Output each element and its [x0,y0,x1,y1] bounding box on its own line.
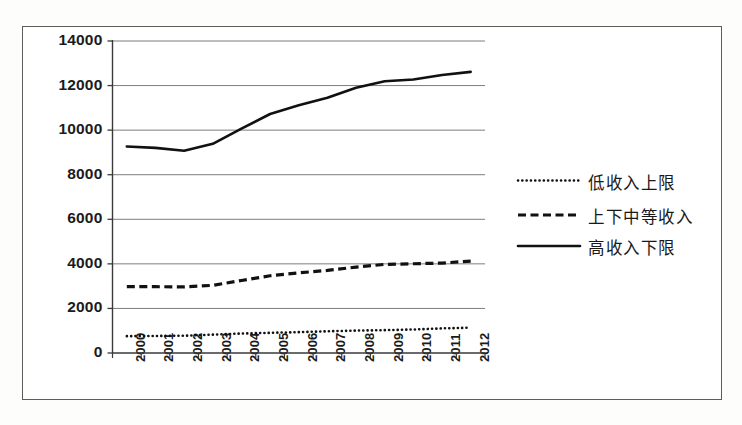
y-tick-label: 14000 [58,31,102,49]
y-tick-label: 0 [94,343,103,361]
y-tick-label: 8000 [67,165,102,183]
x-tick-label: 2000 [133,333,148,362]
y-tick-label: 6000 [67,209,102,227]
y-tick-label: 2000 [67,298,102,316]
x-tick-label: 2012 [477,333,492,362]
x-tick-label: 2007 [333,333,348,362]
legend-item-1[interactable] [514,168,704,194]
y-tick-label: 4000 [67,254,102,272]
x-tick-label: 2006 [305,333,320,362]
legend-item-3[interactable] [514,233,704,259]
x-tick-label: 2009 [391,333,406,362]
x-tick-label: 2008 [362,333,377,362]
x-tick-label: 2010 [419,333,434,362]
x-tick-label: 2011 [448,333,463,362]
x-tick-label: 2001 [161,333,176,362]
x-tick-label: 2003 [219,333,234,362]
x-tick-label: 2005 [276,333,291,362]
x-tick-label: 2004 [247,333,262,362]
chart-figure: 02000400060008000100001200014000 2000200… [0,0,742,425]
x-tick-label: 2002 [190,333,205,362]
legend-item-2[interactable] [514,202,704,228]
y-tick-label: 12000 [58,76,102,94]
y-tick-label: 10000 [58,120,102,138]
